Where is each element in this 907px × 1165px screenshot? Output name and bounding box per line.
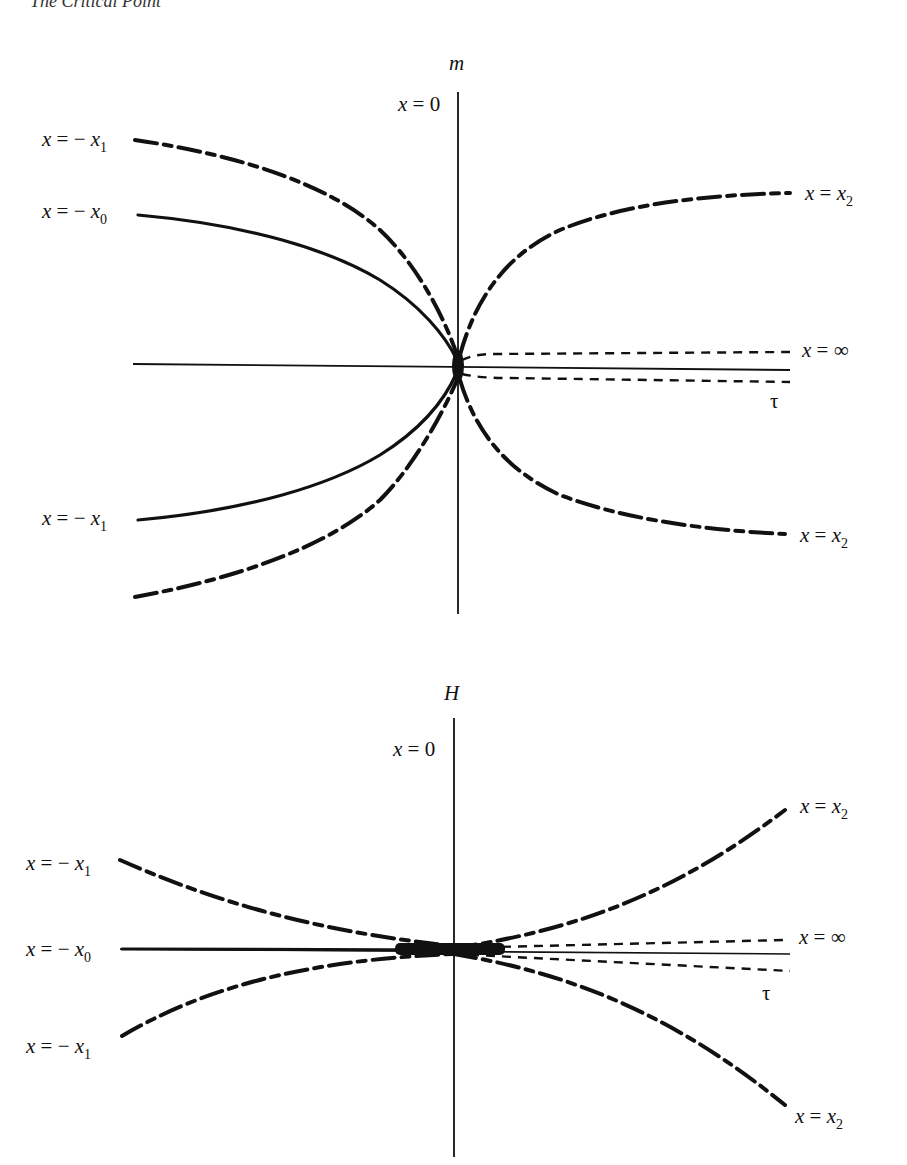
h-axis-title: H [443,681,461,705]
curve-left-upper-dashdot [135,140,457,355]
curve-left-upper-dashdot-h [120,860,454,946]
curve-right-lower-dashdot [460,380,785,534]
label-right-upper-dash-h: x = x2 [799,794,848,822]
label-x-zero-top: x = 0 [397,92,440,116]
figure: m x = 0 x = − x1 x = − x0 x = − x1 x = x… [0,0,907,1165]
label-x-infinity-bottom: x = ∞ [798,925,846,949]
curve-right-upper-dashdot-h [454,810,785,948]
label-right-lower-dash-h: x = x2 [794,1104,843,1132]
curve-x-infinity-top [462,352,790,360]
curve-right-upper-dashdot [460,193,790,355]
label-left-axis-solid-h: x = − x0 [25,937,91,965]
label-x-infinity-top: x = ∞ [801,338,849,362]
label-left-upper-dash-h: x = − x1 [25,851,91,879]
label-left-lower-solid: x = − x1 [41,506,107,534]
label-right-lower-dash: x = x2 [799,523,848,551]
critical-point-marker-top [452,350,464,382]
label-tau-bottom: τ [762,981,770,1005]
chart-m: m x = 0 x = − x1 x = − x0 x = − x1 x = x… [41,51,853,614]
label-right-upper-dash: x = x2 [804,181,853,209]
curve-left-upper-solid [138,215,457,360]
label-left-upper-dash: x = − x1 [41,127,107,155]
curve-tau-top [462,374,790,382]
label-x-zero-bottom: x = 0 [392,737,435,761]
m-axis-title: m [449,51,464,75]
curve-left-lower-solid [138,372,457,520]
critical-point-marker-bottom [395,943,505,955]
curve-right-lower-dashdot-h [454,954,785,1105]
label-left-lower-dash-h: x = − x1 [25,1034,91,1062]
chart-h: H x = 0 x = − x1 x = − x0 x = − x1 x = x… [25,681,848,1157]
label-left-upper-solid: x = − x0 [41,199,107,227]
label-tau-top: τ [770,389,778,413]
curve-left-lower-dashdot-h [122,954,454,1036]
curve-left-lower-dashdot [135,380,457,597]
